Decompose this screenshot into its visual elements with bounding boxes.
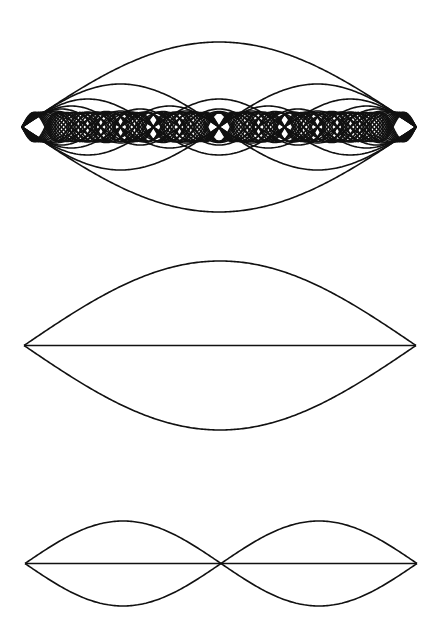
standing-waves-diagram [0,0,444,641]
harmonic-1-wave-upper [24,261,416,346]
second-harmonic-mode-panel [25,521,417,606]
harmonic-1-wave-lower [24,346,416,431]
fundamental-mode-panel [24,261,416,430]
superposition-of-harmonics-panel [22,42,416,212]
